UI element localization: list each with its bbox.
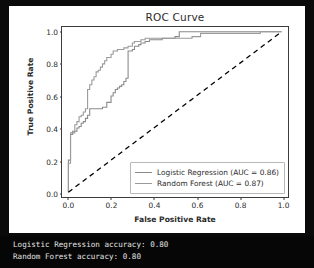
x-tick-mark <box>283 197 284 200</box>
matplotlib-figure: ROC Curve True Positive Rate False Posit… <box>9 6 305 233</box>
figure-canvas: ROC Curve True Positive Rate False Posit… <box>9 6 305 233</box>
x-tick-label: 0.4 <box>149 201 161 210</box>
x-axis-label: False Positive Rate <box>61 215 289 224</box>
x-tick-mark <box>154 197 155 200</box>
y-tick-mark <box>60 129 63 130</box>
y-tick-label: 1.0 <box>46 27 58 36</box>
terminal-output: Logistic Regression accuracy: 0.80 Rando… <box>0 236 314 268</box>
x-tick-label: 0.0 <box>63 201 75 210</box>
y-tick-mark <box>60 194 63 195</box>
y-tick-mark <box>60 64 63 65</box>
terminal-line-randomforest: Random Forest accuracy: 0.80 <box>13 251 314 263</box>
x-tick-mark <box>68 197 69 200</box>
x-tick-label: 0.8 <box>235 201 247 210</box>
y-tick-label: 0.0 <box>46 190 58 199</box>
y-tick-mark <box>60 96 63 97</box>
page-title: ROC Curve <box>61 11 289 23</box>
chart-legend: Logistic Regression (AUC = 0.86)Random F… <box>130 162 285 194</box>
legend-item: Logistic Regression (AUC = 0.86) <box>135 167 279 178</box>
plot-area: Logistic Regression (AUC = 0.86)Random F… <box>61 26 289 198</box>
x-tick-label: 0.6 <box>192 201 204 210</box>
x-tick-mark <box>240 197 241 200</box>
legend-item-label: Logistic Regression (AUC = 0.86) <box>157 168 279 177</box>
x-tick-mark <box>111 197 112 200</box>
terminal-line-logistic: Logistic Regression accuracy: 0.80 <box>13 239 314 251</box>
y-tick-mark <box>60 31 63 32</box>
legend-item-label: Random Forest (AUC = 0.87) <box>157 179 264 188</box>
y-tick-label: 0.6 <box>46 92 58 101</box>
y-tick-mark <box>60 161 63 162</box>
y-tick-label: 0.2 <box>46 157 58 166</box>
y-tick-label: 0.4 <box>46 125 58 134</box>
y-axis-label: True Positive Rate <box>26 32 35 162</box>
x-tick-label: 0.2 <box>106 201 118 210</box>
legend-item: Random Forest (AUC = 0.87) <box>135 178 279 189</box>
x-tick-mark <box>197 197 198 200</box>
legend-line-icon <box>135 172 152 173</box>
legend-line-icon <box>135 183 152 184</box>
x-tick-label: 1.0 <box>278 201 290 210</box>
y-tick-label: 0.8 <box>46 60 58 69</box>
screenshot-root: ROC Curve True Positive Rate False Posit… <box>0 0 314 268</box>
